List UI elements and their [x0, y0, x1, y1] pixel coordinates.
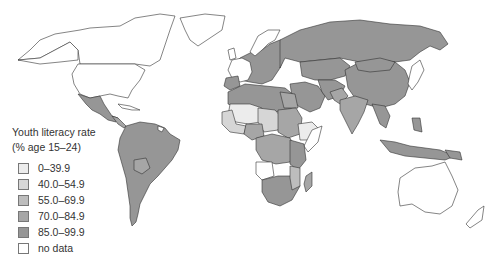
legend-label: 40.0–54.9: [38, 178, 85, 190]
legend-label: 55.0–69.9: [38, 194, 85, 206]
legend-item: 0–39.9: [12, 160, 142, 176]
legend-label: no data: [38, 242, 73, 254]
legend-item: no data: [12, 240, 142, 256]
region-new-zealand: [466, 206, 484, 228]
legend-title: Youth literacy rate (% age 15–24): [12, 125, 142, 155]
legend-items: 0–39.9 40.0–54.9 55.0–69.9 70.0–84.9 85.…: [12, 160, 142, 256]
region-greenland: [180, 14, 225, 46]
legend-item: 70.0–84.9: [12, 208, 142, 224]
legend-label: 85.0–99.9: [38, 226, 85, 238]
region-uk: [228, 48, 236, 60]
region-sudan: [278, 108, 302, 138]
legend-item: 85.0–99.9: [12, 224, 142, 240]
legend-swatch: [18, 195, 29, 206]
region-central-asia: [300, 58, 350, 80]
legend-swatch: [18, 163, 29, 174]
legend-swatch: [18, 179, 29, 190]
region-angola: [256, 162, 274, 180]
legend-label: 70.0–84.9: [38, 210, 85, 222]
region-mozambique: [290, 166, 300, 190]
legend: Youth literacy rate (% age 15–24) 0–39.9…: [12, 125, 142, 256]
legend-swatch: [18, 211, 29, 222]
legend-title-line1: Youth literacy rate: [12, 125, 142, 140]
region-japan-korea: [408, 60, 424, 90]
legend-title-line2: (% age 15–24): [12, 140, 142, 155]
region-caribbean: [118, 104, 140, 110]
legend-swatch: [18, 227, 29, 238]
region-mexico: [78, 94, 118, 122]
region-indonesia: [380, 140, 455, 160]
region-philippines: [412, 118, 422, 132]
region-india: [340, 96, 368, 134]
legend-item: 55.0–69.9: [12, 192, 142, 208]
region-madagascar: [304, 172, 312, 192]
region-usa: [72, 64, 145, 98]
region-east-africa: [290, 140, 306, 170]
legend-swatch: [18, 243, 29, 254]
legend-item: 40.0–54.9: [12, 176, 142, 192]
region-southeast-asia: [372, 104, 390, 128]
region-australia: [398, 162, 458, 214]
legend-label: 0–39.9: [38, 162, 70, 174]
